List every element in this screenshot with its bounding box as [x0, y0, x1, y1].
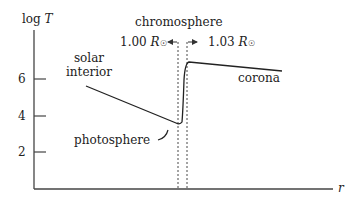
photosphere-pointer — [158, 130, 168, 140]
tick-label-2: 2 — [18, 146, 26, 158]
y-axis-label: log T — [22, 13, 53, 25]
label-corona: corona — [238, 72, 280, 84]
x-axis-label: r — [338, 182, 344, 194]
label-photosphere: photosphere — [74, 134, 150, 146]
label-solar-interior: solar interior — [66, 52, 112, 78]
label-chromosphere: chromosphere — [135, 16, 223, 28]
label-r-inner: 1.00 R☉ — [120, 36, 167, 48]
temperature-diagram — [0, 0, 362, 200]
label-r-outer: 1.03 R☉ — [208, 36, 255, 48]
tick-label-4: 4 — [18, 110, 26, 122]
tick-label-6: 6 — [18, 73, 26, 85]
